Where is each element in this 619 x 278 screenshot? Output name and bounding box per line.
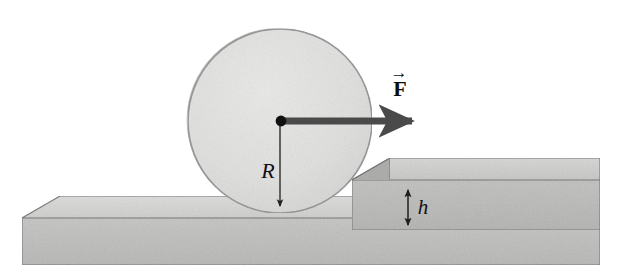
step-height-label: h	[418, 195, 429, 219]
diagram-canvas: R F → h	[0, 0, 619, 278]
force-vector-accent-icon: →	[391, 63, 408, 82]
radius-label: R	[260, 158, 275, 183]
physics-diagram-figure: R F → h	[0, 0, 619, 278]
wheel-center-dot	[276, 116, 287, 127]
step-block	[352, 158, 600, 230]
step-front-face	[352, 180, 600, 230]
